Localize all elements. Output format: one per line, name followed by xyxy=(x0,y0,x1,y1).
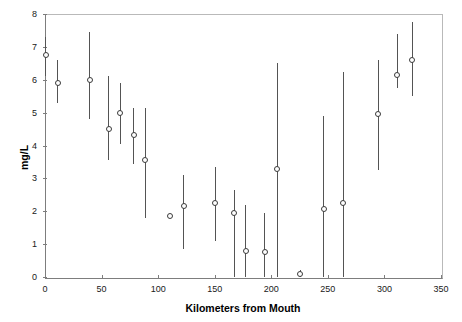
error-bar-whisker xyxy=(183,175,184,249)
data-point-marker xyxy=(117,110,123,116)
data-point-marker xyxy=(181,203,187,209)
data-series xyxy=(0,0,462,322)
data-point-marker xyxy=(131,132,137,138)
error-bar-whisker xyxy=(245,205,246,277)
error-bar-whisker xyxy=(234,190,235,277)
data-point-marker xyxy=(142,157,148,163)
data-point-marker xyxy=(243,248,249,254)
error-bar-whisker xyxy=(343,72,344,277)
data-point-marker xyxy=(212,200,218,206)
error-bar-whisker xyxy=(323,116,324,277)
data-point-marker xyxy=(43,52,49,58)
data-point-marker xyxy=(321,206,327,212)
data-point-marker xyxy=(340,200,346,206)
data-point-marker xyxy=(375,111,381,117)
chart-root: mg/L Kilometers from Mouth 0123456780501… xyxy=(0,0,462,322)
data-point-marker xyxy=(167,213,173,219)
data-point-marker xyxy=(106,126,112,132)
data-point-marker xyxy=(274,166,280,172)
data-point-marker xyxy=(55,80,61,86)
error-bar-whisker xyxy=(264,213,265,277)
data-point-marker xyxy=(297,271,303,277)
data-point-marker xyxy=(87,77,93,83)
error-bar-whisker xyxy=(89,32,90,119)
data-point-marker xyxy=(394,72,400,78)
error-bar-whisker xyxy=(397,34,398,88)
data-point-marker xyxy=(262,249,268,255)
error-bar-whisker xyxy=(108,76,109,160)
data-point-marker xyxy=(231,210,237,216)
data-point-marker xyxy=(409,57,415,63)
